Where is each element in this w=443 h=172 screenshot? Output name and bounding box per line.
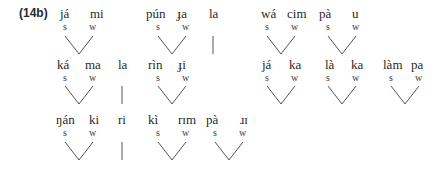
strong-syllable: pún [146, 7, 166, 20]
foot-branch-left [267, 36, 281, 54]
strong-syllable: já [60, 7, 69, 20]
foot-branch-right [79, 86, 93, 104]
weak-syllable: ɟa [177, 7, 187, 20]
strong-label: s [326, 73, 330, 83]
foot-branch-left [65, 142, 79, 160]
strong-label: s [265, 22, 269, 32]
weak-syllable: ka [351, 58, 363, 71]
strong-syllable: kì [148, 113, 158, 126]
strong-label: s [63, 22, 67, 32]
weak-label: w [89, 128, 96, 138]
strong-syllable: la [209, 7, 218, 20]
foot-branch-right [79, 36, 93, 54]
strong-syllable: là [325, 58, 334, 71]
weak-syllable: ma [85, 58, 101, 71]
weak-syllable: ɟi [178, 58, 186, 71]
weak-syllable: ki [89, 113, 99, 126]
weak-label: w [182, 73, 189, 83]
weak-label: w [291, 22, 298, 32]
foot-branch-left [267, 86, 281, 104]
strong-label: s [156, 73, 160, 83]
weak-label: w [291, 73, 298, 83]
strong-label: s [326, 22, 330, 32]
strong-label: s [213, 128, 217, 138]
strong-syllable: pà [206, 113, 218, 126]
weak-syllable: ka [289, 58, 301, 71]
foot-branch-left [391, 86, 405, 104]
weak-label: w [182, 22, 189, 32]
strong-syllable: làm [383, 58, 403, 71]
strong-syllable: já [262, 58, 271, 71]
foot-branch-right [405, 86, 419, 104]
strong-syllable: ri [118, 113, 126, 126]
foot-branch-left [328, 36, 342, 54]
strong-label: s [63, 128, 67, 138]
strong-syllable: rìn [148, 58, 162, 71]
strong-syllable: la [118, 58, 127, 71]
weak-syllable: u [352, 7, 359, 20]
foot-branch-left [215, 142, 229, 160]
strong-label: s [156, 22, 160, 32]
weak-syllable: cim [287, 7, 307, 20]
weak-label: w [89, 22, 96, 32]
foot-branch-right [172, 86, 186, 104]
strong-syllable: pà [319, 7, 331, 20]
weak-label: w [239, 128, 246, 138]
strong-syllable: wá [261, 7, 276, 20]
weak-label: w [89, 73, 96, 83]
foot-branch-right [281, 86, 295, 104]
weak-syllable: ɹɪ [240, 113, 248, 126]
strong-syllable: ŋán [56, 113, 75, 126]
strong-syllable: ká [57, 58, 69, 71]
weak-label: w [415, 73, 422, 83]
strong-label: s [265, 73, 269, 83]
strong-label: s [156, 128, 160, 138]
foot-branch-left [65, 36, 79, 54]
strong-label: s [63, 73, 67, 83]
foot-branch-right [342, 36, 356, 54]
foot-branch-right [229, 142, 243, 160]
foot-branch-left [158, 86, 172, 104]
foot-branch-right [281, 36, 295, 54]
weak-label: w [352, 73, 359, 83]
foot-branch-right [342, 86, 356, 104]
weak-syllable: rɪm [178, 113, 196, 126]
strong-label: s [389, 73, 393, 83]
foot-branch-left [65, 86, 79, 104]
foot-branch-left [158, 142, 172, 160]
foot-branch-left [328, 86, 342, 104]
weak-label: w [182, 128, 189, 138]
weak-syllable: mi [90, 7, 104, 20]
foot-branch-right [172, 36, 186, 54]
weak-syllable: pa [411, 58, 423, 71]
foot-branch-right [172, 142, 186, 160]
weak-label: w [352, 22, 359, 32]
foot-branch-left [158, 36, 172, 54]
foot-branch-right [79, 142, 93, 160]
